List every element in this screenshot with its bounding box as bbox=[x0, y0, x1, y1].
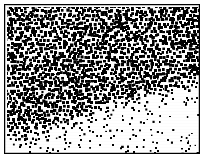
figure-root bbox=[0, 0, 207, 160]
dither-dot-canvas bbox=[7, 7, 199, 153]
plate-border bbox=[4, 4, 200, 154]
